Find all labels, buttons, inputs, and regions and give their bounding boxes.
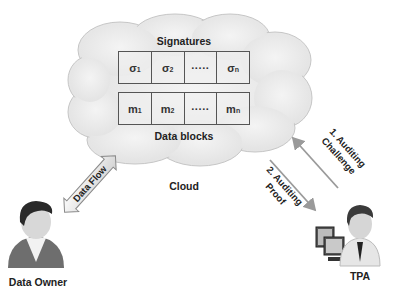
signature-cell: σ2 [152,52,185,83]
data-block-cell: m1 [119,93,152,124]
data-block-cell: mn [217,93,249,124]
cloud-label: Cloud [164,180,204,192]
data-owner-label: Data Owner [2,276,74,288]
signature-cell: σn [217,52,249,83]
data-owner-figure [8,201,64,268]
data-blocks-title: Data blocks [148,130,220,142]
data-blocks-row: m1 m2 ····· mn [118,92,250,125]
data-block-cell: m2 [152,93,185,124]
signature-cell: σ1 [119,52,152,83]
signatures-row: σ1 σ2 ····· σn [118,51,250,84]
signature-cell: ····· [185,52,218,83]
tpa-figure [316,205,380,266]
tpa-label: TPA [345,270,375,282]
signatures-title: Signatures [154,35,214,47]
data-block-cell: ····· [185,93,218,124]
